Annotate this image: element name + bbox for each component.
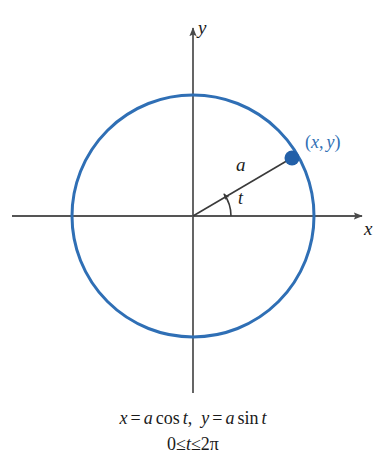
circle-parametrization-diagram — [0, 0, 386, 467]
point-marker — [285, 151, 300, 166]
figure-container: y x a t (x,y) x=acost,y=asint 0≤t≤2π — [0, 0, 386, 467]
radius-segment — [193, 159, 290, 216]
